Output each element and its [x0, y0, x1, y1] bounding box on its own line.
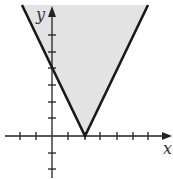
absolute-value-inequality-graph: y x: [0, 0, 173, 179]
shaded-region: [22, 5, 148, 136]
y-axis-label: y: [35, 5, 46, 24]
x-axis-label: x: [163, 139, 172, 158]
